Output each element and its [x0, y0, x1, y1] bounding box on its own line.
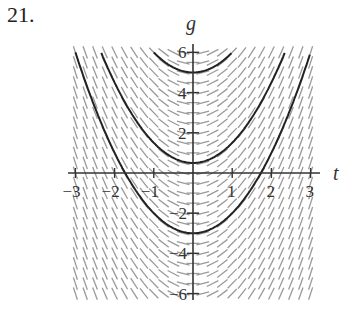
- slope-segment: [228, 98, 237, 107]
- slope-segment: [228, 239, 237, 248]
- slope-segment: [158, 249, 168, 257]
- slope-segment: [140, 228, 148, 238]
- slope-segment: [258, 127, 264, 138]
- slope-segment: [217, 48, 227, 56]
- slope-segment: [112, 268, 118, 280]
- slope-segment: [112, 97, 118, 109]
- slope-segment: [102, 227, 107, 239]
- slope-segment: [238, 108, 246, 118]
- slope-segment: [248, 288, 255, 299]
- slope-segment: [279, 197, 284, 209]
- slope-segment: [217, 290, 227, 298]
- slope-segment: [238, 218, 246, 228]
- slope-segment: [158, 199, 168, 207]
- slope-segment: [131, 158, 138, 169]
- slope-segment: [279, 97, 284, 109]
- slope-segment: [102, 107, 107, 119]
- slope-segment: [238, 77, 246, 87]
- slope-segment: [102, 278, 107, 290]
- slope-segment: [258, 77, 264, 88]
- slope-segment: [158, 290, 168, 298]
- slope-segment: [140, 248, 148, 258]
- slope-segment: [217, 139, 227, 147]
- slope-segment: [149, 68, 158, 77]
- slope-segment: [238, 258, 246, 268]
- slope-segment: [112, 127, 118, 139]
- slope-segment: [228, 88, 237, 97]
- slope-segment: [217, 239, 227, 247]
- t-tick-label: 2: [266, 182, 275, 201]
- slope-segment: [248, 97, 255, 108]
- g-tick-label: 2: [178, 124, 187, 143]
- slope-segment: [258, 197, 264, 208]
- slope-segment: [131, 228, 138, 239]
- slope-segment: [102, 157, 107, 169]
- slope-segment: [238, 87, 246, 97]
- slope-segment: [217, 189, 227, 197]
- slope-segment: [158, 280, 168, 288]
- slope-segment: [121, 67, 127, 78]
- slope-segment: [238, 148, 246, 158]
- slope-field-chart: t g −3−2−1123642−2−4−6: [0, 0, 360, 333]
- slope-segment: [238, 57, 246, 67]
- slope-segment: [217, 89, 227, 97]
- slope-segment: [158, 270, 168, 278]
- slope-segment: [121, 127, 127, 138]
- slope-segment: [158, 48, 168, 56]
- slope-segment: [248, 137, 255, 148]
- slope-segment: [158, 229, 168, 237]
- slope-segment: [102, 137, 107, 149]
- slope-segment: [238, 288, 246, 298]
- slope-segment: [121, 228, 127, 239]
- slope-segment: [131, 87, 138, 98]
- slope-segment: [102, 247, 107, 259]
- slope-segment: [248, 268, 255, 279]
- slope-segment: [131, 268, 138, 279]
- slope-segment: [121, 197, 127, 208]
- slope-segment: [217, 270, 227, 278]
- slope-segment: [228, 249, 237, 258]
- slope-segment: [121, 258, 127, 269]
- slope-segment: [121, 47, 127, 58]
- slope-segment: [102, 237, 107, 249]
- slope-segment: [121, 117, 127, 128]
- slope-segment: [279, 237, 284, 249]
- slope-segment: [140, 268, 148, 278]
- slope-segment: [279, 278, 284, 290]
- slope-segment: [248, 57, 255, 68]
- slope-segment: [258, 67, 264, 78]
- slope-segment: [258, 228, 264, 239]
- slope-segment: [269, 57, 275, 69]
- g-tick-label: −2: [169, 204, 187, 223]
- slope-segment: [121, 268, 127, 279]
- slope-segment: [102, 288, 107, 300]
- slope-segment: [248, 238, 255, 249]
- slope-segment: [140, 208, 148, 218]
- slope-segment: [149, 289, 158, 298]
- t-tick-label: 3: [306, 182, 315, 201]
- slope-segment: [217, 199, 227, 207]
- slope-segment: [217, 109, 227, 117]
- slope-segment: [279, 77, 284, 89]
- slope-segment: [279, 157, 284, 169]
- slope-segment: [228, 118, 237, 127]
- slope-segment: [158, 109, 168, 117]
- slope-segment: [258, 288, 264, 299]
- slope-segment: [279, 207, 284, 219]
- slope-segment: [248, 258, 255, 269]
- slope-segment: [158, 58, 168, 66]
- slope-segment: [269, 248, 275, 260]
- slope-segment: [279, 227, 284, 239]
- slope-segment: [102, 217, 107, 229]
- slope-segment: [228, 108, 237, 117]
- slope-segment: [131, 278, 138, 289]
- slope-segment: [269, 107, 275, 119]
- slope-segment: [102, 67, 107, 79]
- slope-segment: [217, 129, 227, 137]
- slope-segment: [228, 78, 237, 87]
- slope-segment: [228, 158, 237, 167]
- slope-segment: [258, 278, 264, 289]
- slope-segment: [121, 238, 127, 249]
- slope-segment: [140, 288, 148, 298]
- slope-segment: [121, 77, 127, 88]
